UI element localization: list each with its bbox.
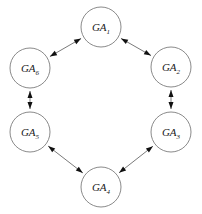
arrowhead-icon xyxy=(76,167,83,173)
arrowhead-icon xyxy=(28,102,33,109)
arrowhead-icon xyxy=(146,146,153,152)
nodes-layer: GA1GA2GA3GA4GA5GA6 xyxy=(10,7,191,207)
edge-ga3-ga4 xyxy=(119,146,153,173)
graph-node-ga5[interactable]: GA5 xyxy=(10,112,50,152)
arrowhead-icon xyxy=(169,102,174,109)
edge-ga6-ga1 xyxy=(50,39,81,57)
node-label-subscript: 3 xyxy=(176,132,181,140)
edge-ga2-ga3 xyxy=(169,90,174,109)
arrowhead-icon xyxy=(50,51,57,57)
arrowhead-icon xyxy=(48,146,55,152)
arrowhead-icon xyxy=(144,50,151,56)
node-label-base: GA xyxy=(162,61,177,73)
ga-ring-diagram: GA1GA2GA3GA4GA5GA6 xyxy=(0,0,202,214)
graph-canvas: GA1GA2GA3GA4GA5GA6 xyxy=(0,0,202,214)
node-label-subscript: 6 xyxy=(36,68,40,76)
graph-node-ga4[interactable]: GA4 xyxy=(81,167,121,207)
node-label-base: GA xyxy=(21,62,36,74)
arrowhead-icon xyxy=(74,39,81,45)
graph-node-ga3[interactable]: GA3 xyxy=(151,112,191,152)
graph-node-ga2[interactable]: GA2 xyxy=(151,47,191,87)
node-label-base: GA xyxy=(92,181,107,193)
node-label-subscript: 1 xyxy=(107,27,111,35)
node-label-base: GA xyxy=(92,21,107,33)
arrowhead-icon xyxy=(28,91,33,98)
node-label-subscript: 4 xyxy=(107,187,111,195)
edge-ga5-ga6 xyxy=(28,91,33,109)
node-label-subscript: 2 xyxy=(177,67,181,75)
arrowhead-icon xyxy=(169,90,174,97)
edge-ga1-ga2 xyxy=(121,38,151,55)
graph-node-ga6[interactable]: GA6 xyxy=(10,48,50,88)
graph-node-ga1[interactable]: GA1 xyxy=(81,7,121,47)
node-label-base: GA xyxy=(21,126,36,138)
edge-ga4-ga5 xyxy=(48,146,83,173)
arrowhead-icon xyxy=(121,38,128,44)
node-label-subscript: 5 xyxy=(36,132,40,140)
node-label-base: GA xyxy=(162,126,177,138)
arrowhead-icon xyxy=(119,166,126,172)
edges-layer xyxy=(28,38,174,173)
